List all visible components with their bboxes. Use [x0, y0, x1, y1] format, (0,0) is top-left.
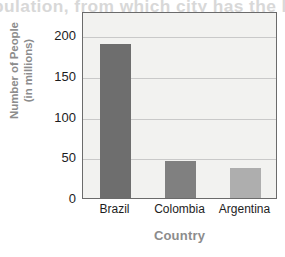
bar-series	[83, 13, 276, 198]
y-tick-label: 50	[42, 151, 76, 164]
bar-brazil	[100, 44, 131, 198]
x-tick-label-colombia: Colombia	[147, 202, 212, 217]
x-axis-title: Country	[82, 228, 277, 243]
x-tick-label-brazil: Brazil	[82, 202, 147, 217]
y-axis-title: Number of People (in millions)	[8, 0, 35, 151]
y-tick-label: 0	[42, 192, 76, 205]
y-axis-title-line2: (in millions)	[21, 0, 35, 151]
y-tick-label: 100	[42, 111, 76, 124]
y-tick-label: 150	[42, 70, 76, 83]
plot-area	[82, 12, 277, 199]
y-tick-label: 200	[42, 29, 76, 42]
y-axis-title-line1: Number of People	[8, 22, 20, 119]
x-axis-tick-labels: BrazilColombiaArgentina	[82, 202, 277, 220]
bar-chart-figure: pulation, from which city has the l A ca…	[0, 0, 285, 257]
bar-argentina	[230, 168, 261, 198]
x-tick-label-argentina: Argentina	[212, 202, 277, 217]
bar-colombia	[165, 161, 196, 198]
y-axis-tick-labels: 050100150200	[42, 0, 76, 257]
